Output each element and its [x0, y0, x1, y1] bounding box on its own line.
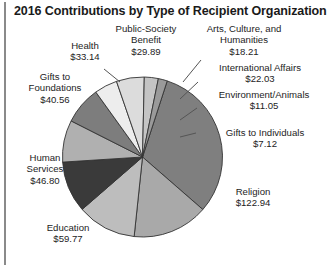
label-health-value: $33.14: [57, 51, 113, 62]
label-religion-name: Religion: [236, 186, 271, 197]
label-health: Health $33.14: [57, 40, 113, 63]
label-international-value: $22.03: [202, 73, 318, 84]
pie-chart-figure: 2016 Contributions by Type of Recipient …: [0, 0, 330, 267]
label-international-affairs: International Affairs $22.03: [202, 62, 318, 85]
label-religion: Religion $122.94: [214, 186, 292, 209]
label-human-services-value: $46.80: [8, 175, 82, 186]
label-religion-value: $122.94: [214, 197, 292, 208]
label-gifts-to-foundations: Gifts to Foundations $40.56: [9, 71, 101, 105]
label-human-services-line1: Human: [30, 152, 61, 163]
label-gifts-individuals-name: Gifts to Individuals: [226, 127, 304, 138]
leader-line-arts: [183, 60, 201, 82]
label-arts-line1: Arts, Culture, and: [207, 23, 282, 34]
label-gifts-foundations-value: $40.56: [9, 94, 101, 105]
label-health-name: Health: [71, 40, 99, 51]
label-gifts-foundations-line1: Gifts to: [40, 71, 70, 82]
label-education-value: $59.77: [29, 233, 107, 244]
label-arts-value: $18.21: [196, 46, 292, 57]
label-environment-animals: Environment/Animals $11.05: [202, 89, 326, 112]
label-gifts-individuals-value: $7.12: [204, 138, 326, 149]
label-human-services-line2: Services: [8, 163, 82, 174]
label-education: Education $59.77: [29, 222, 107, 245]
label-international-name: International Affairs: [219, 62, 301, 73]
label-environment-value: $11.05: [202, 100, 326, 111]
label-environment-name: Environment/Animals: [219, 89, 310, 100]
label-education-name: Education: [47, 222, 90, 233]
label-gifts-foundations-line2: Foundations: [9, 82, 101, 93]
label-public-society-value: $29.89: [106, 46, 186, 57]
label-human-services: Human Services $46.80: [8, 152, 82, 186]
label-public-society-line1: Public-Society: [116, 23, 177, 34]
label-arts-line2: Humanities: [196, 34, 292, 45]
label-gifts-to-individuals: Gifts to Individuals $7.12: [204, 127, 326, 150]
leader-line-health: [104, 69, 120, 82]
label-arts-culture-humanities: Arts, Culture, and Humanities $18.21: [196, 23, 292, 57]
label-public-society-line2: Benefit: [106, 34, 186, 45]
label-public-society-benefit: Public-Society Benefit $29.89: [106, 23, 186, 57]
